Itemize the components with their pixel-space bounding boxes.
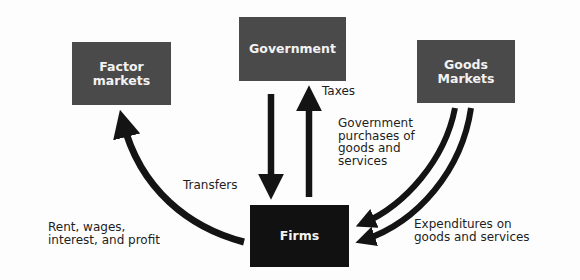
factor-markets-label: Factor markets xyxy=(93,60,151,88)
rent-wages-label: Rent, wages, interest, and profit xyxy=(48,221,160,246)
factor-markets-box: Factor markets xyxy=(72,42,171,105)
government-purchases-label: Government purchases of goods and servic… xyxy=(338,117,415,167)
goods-markets-label: Goods Markets xyxy=(438,58,495,86)
goods-markets-box: Goods Markets xyxy=(417,40,515,103)
expenditures-label: Expenditures on goods and services xyxy=(414,218,530,243)
circular-flow-diagram: Factor markets Government Goods Markets … xyxy=(0,0,580,280)
government-label: Government xyxy=(249,42,336,56)
taxes-label: Taxes xyxy=(322,85,355,98)
firms-label: Firms xyxy=(280,229,319,243)
transfers-label: Transfers xyxy=(183,179,238,192)
firms-box: Firms xyxy=(250,205,349,267)
government-box: Government xyxy=(239,17,346,81)
